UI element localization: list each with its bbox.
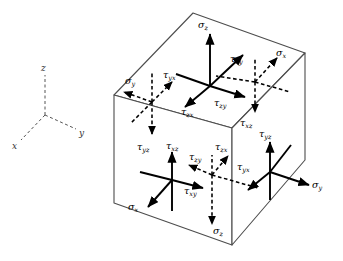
coordinate-triad: z y x: [12, 63, 85, 151]
figure-canvas: z y x σz τzx τzy τxy: [0, 0, 343, 261]
axis-y-line: [45, 115, 76, 129]
axis-y-label: y: [78, 128, 85, 138]
axis-z-label: z: [40, 63, 46, 73]
stress-cube-figure: z y x σz τzx τzy τxy: [0, 0, 343, 261]
axis-x-label: x: [12, 141, 17, 151]
label-sigma-y-right: σy: [312, 179, 323, 192]
axis-x-line: [21, 115, 45, 140]
